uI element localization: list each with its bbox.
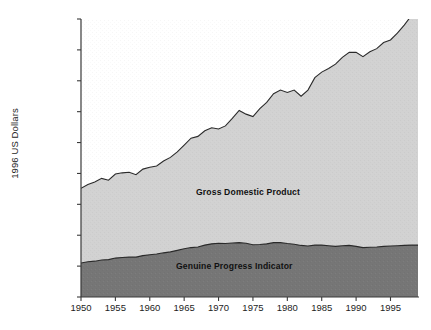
y-axis-tick-labels: 05,00010,00015,00020,00025,00030,00035,0… xyxy=(0,0,73,330)
series-label-gross-domestic-product: Gross Domestic Product xyxy=(196,187,300,197)
series-label-genuine-progress-indicator: Genuine Progress Indicator xyxy=(176,261,293,271)
x-axis-tick-label: 1995 xyxy=(370,302,410,313)
chart-container: 1996 US Dollars 05,00010,00015,00020,000… xyxy=(0,0,431,330)
